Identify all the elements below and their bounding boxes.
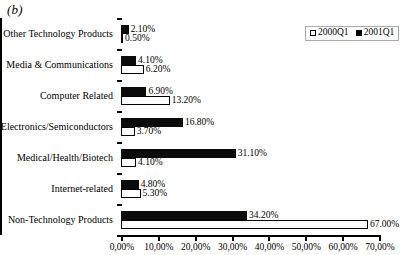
bar-2000q1-5: 5.30% bbox=[121, 189, 141, 198]
x-axis-tick bbox=[232, 235, 234, 241]
x-axis-tick bbox=[158, 235, 160, 241]
bar-chart: (b) 2000Q1 2001Q1 Other Technology Produ… bbox=[0, 0, 408, 255]
bar-2001q1-6: 34.20% bbox=[121, 211, 247, 220]
bar-value-label: 67.00% bbox=[370, 219, 399, 229]
y-axis-tick bbox=[117, 142, 122, 144]
x-axis-label-6: 60,00% bbox=[328, 242, 357, 252]
x-axis-tick bbox=[268, 235, 270, 241]
bar-value-label: 6.90% bbox=[148, 86, 173, 96]
bar-2000q1-4: 4.10% bbox=[121, 158, 136, 167]
bar-2001q1-1: 4.10% bbox=[121, 56, 136, 65]
x-axis-label-3: 30,00% bbox=[218, 242, 247, 252]
category-label-6: Non-Technology Products bbox=[8, 214, 113, 225]
x-axis-label-4: 40,00% bbox=[255, 242, 284, 252]
bar-value-label: 3.70% bbox=[137, 126, 162, 136]
bar-value-label: 4.10% bbox=[138, 157, 163, 167]
x-axis-label-1: 10,00% bbox=[144, 242, 173, 252]
bar-2000q1-1: 6.20% bbox=[121, 65, 144, 74]
bar-2001q1-2: 6.90% bbox=[121, 87, 146, 96]
category-label-5: Internet-related bbox=[51, 183, 113, 194]
y-axis-line bbox=[0, 18, 2, 235]
y-axis-tick bbox=[117, 173, 122, 175]
bar-2000q1-3: 3.70% bbox=[121, 127, 135, 136]
x-axis-tick bbox=[379, 235, 381, 241]
category-label-2: Computer Related bbox=[40, 90, 113, 101]
category-label-0: Other Technology Products bbox=[3, 28, 113, 39]
bar-2000q1-0: 0.50% bbox=[121, 34, 123, 43]
category-label-4: Medical/Health/Biotech bbox=[17, 152, 113, 163]
x-axis-tick bbox=[195, 235, 197, 241]
x-axis-label-7: 70,00% bbox=[365, 242, 394, 252]
bar-2001q1-5: 4.80% bbox=[121, 180, 139, 189]
y-axis-tick bbox=[117, 80, 122, 82]
bar-value-label: 34.20% bbox=[249, 210, 278, 220]
bar-value-label: 31.10% bbox=[238, 148, 267, 158]
bar-2000q1-6: 67.00% bbox=[121, 220, 368, 229]
bar-value-label: 6.20% bbox=[146, 64, 171, 74]
plot-area: 2.10%0.50%4.10%6.20%6.90%13.20%16.80%3.7… bbox=[121, 18, 379, 235]
bar-value-label: 13.20% bbox=[172, 95, 201, 105]
x-axis-label-5: 50,00% bbox=[292, 242, 321, 252]
x-axis-label-2: 20,00% bbox=[181, 242, 210, 252]
y-axis-tick bbox=[117, 49, 122, 51]
category-label-1: Media & Communications bbox=[6, 59, 113, 70]
category-label-3: Electronics/Semiconductors bbox=[1, 121, 113, 132]
bar-2000q1-2: 13.20% bbox=[121, 96, 170, 105]
category-axis-labels: Other Technology ProductsMedia & Communi… bbox=[0, 18, 117, 235]
x-axis-label-0: 0,00% bbox=[110, 242, 135, 252]
bar-value-label: 16.80% bbox=[185, 117, 214, 127]
y-axis-tick bbox=[117, 111, 122, 113]
panel-label: (b) bbox=[7, 2, 23, 18]
y-axis-tick bbox=[117, 18, 122, 20]
x-axis-tick bbox=[121, 235, 123, 241]
x-axis-tick bbox=[342, 235, 344, 241]
y-axis-tick bbox=[117, 204, 122, 206]
bar-value-label: 0.50% bbox=[125, 33, 150, 43]
x-axis-tick bbox=[305, 235, 307, 241]
bar-value-label: 5.30% bbox=[143, 188, 168, 198]
